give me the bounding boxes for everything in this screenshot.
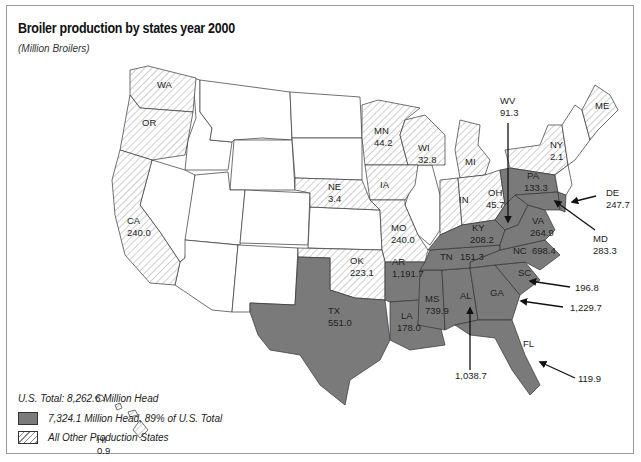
state-MT	[200, 80, 292, 142]
legend-item-top-states: 7,324.1 Million Head, 89% of U.S. Total	[18, 411, 222, 425]
label-MI: MI	[465, 156, 476, 167]
value-OH: 45.7	[486, 199, 505, 210]
value-VA: 264.9	[530, 227, 554, 238]
value-MD: 283.3	[593, 245, 617, 256]
value-OK: 223.1	[350, 267, 374, 278]
value-NY: 2.1	[550, 151, 563, 162]
dark-swatch-icon	[18, 412, 38, 425]
state-CO	[240, 190, 310, 245]
value-GA: 1,229.7	[570, 302, 602, 313]
value-HI: 0.9	[97, 445, 110, 456]
value-KY: 208.2	[470, 234, 494, 245]
value-FL: 119.9	[578, 373, 601, 384]
label-WA: WA	[157, 79, 173, 90]
label-SC: SC	[518, 267, 531, 278]
label-PA: PA	[527, 170, 540, 181]
label-TX: TX	[328, 305, 341, 316]
state-NM	[232, 245, 298, 312]
label-NY: NY	[550, 139, 564, 150]
state-KS	[308, 207, 382, 250]
value-SC: 196.8	[575, 282, 599, 293]
label-KY: KY	[472, 222, 485, 233]
value-TX: 551.0	[328, 317, 352, 328]
value-MN: 44.2	[374, 137, 393, 148]
value-AR: 1,191.7	[392, 268, 424, 279]
label-GA: GA	[490, 287, 504, 298]
label-LA: LA	[401, 310, 413, 321]
value-LA: 178.0	[397, 322, 421, 333]
label-IA: IA	[380, 179, 390, 190]
label-MN: MN	[374, 125, 389, 136]
legend-us-total: U.S. Total: 8,262.6 Million Head	[18, 393, 158, 404]
label-FL: FL	[523, 338, 534, 349]
state-MI	[455, 120, 490, 178]
value-CA: 240.0	[127, 227, 151, 238]
state-FL	[455, 320, 540, 395]
label-VA: VA	[532, 215, 545, 226]
state-NY	[505, 125, 568, 175]
label-OK: OK	[350, 255, 364, 266]
value-NE: 3.4	[328, 193, 341, 204]
value-PA: 133.3	[524, 182, 548, 193]
label-TN: TN	[440, 251, 453, 262]
label-OR: OR	[142, 117, 156, 128]
label-WV: WV	[500, 95, 516, 106]
hatch-swatch-icon	[18, 431, 38, 444]
label-CA: CA	[127, 215, 141, 226]
value-MS: 739.9	[425, 305, 449, 316]
label-IN: IN	[459, 194, 469, 205]
state-ND	[290, 92, 362, 138]
value-MO: 240.0	[391, 234, 415, 245]
state-SD	[292, 138, 362, 180]
value-TN: 151.3	[460, 251, 484, 262]
label-NE: NE	[328, 181, 341, 192]
value-AL: 1,038.7	[455, 370, 487, 381]
label-MO: MO	[391, 222, 406, 233]
label-AR: AR	[392, 256, 405, 267]
label-MD: MD	[593, 233, 608, 244]
value-WI: 32.8	[418, 154, 437, 165]
value-NC: 698.4	[532, 245, 556, 256]
label-AL: AL	[460, 290, 472, 301]
legend-label: 7,324.1 Million Head, 89% of U.S. Total	[48, 413, 222, 424]
state-WY	[230, 140, 295, 190]
legend-item-other-states: All Other Production States	[18, 430, 169, 444]
label-OH: OH	[488, 187, 502, 198]
value-WV: 91.3	[500, 107, 519, 118]
label-MS: MS	[425, 293, 439, 304]
legend-label: All Other Production States	[48, 432, 169, 443]
label-DE: DE	[606, 187, 619, 198]
label-WI: WI	[418, 142, 430, 153]
label-NC: NC	[513, 245, 527, 256]
value-DE: 247.7	[606, 199, 630, 210]
label-ME: ME	[595, 100, 609, 111]
